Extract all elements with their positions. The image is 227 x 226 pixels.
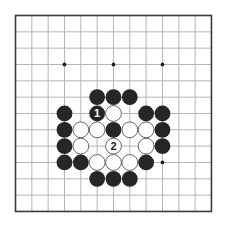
black-stone-circle xyxy=(138,155,154,171)
black-stone-circle xyxy=(122,171,138,187)
star-point xyxy=(112,63,116,67)
black-stone xyxy=(155,138,171,154)
star-point xyxy=(161,161,165,165)
white-stone xyxy=(138,138,154,154)
black-stone xyxy=(106,89,122,105)
black-stone-circle xyxy=(89,89,105,105)
black-stone xyxy=(106,122,122,138)
black-stone-circle xyxy=(89,171,105,187)
white-stone xyxy=(122,122,138,138)
white-stone-circle xyxy=(73,122,89,138)
white-stone-circle xyxy=(106,155,122,171)
black-stone xyxy=(57,155,73,171)
white-stone-circle xyxy=(73,138,89,154)
black-stone-circle xyxy=(106,171,122,187)
white-stone-circle xyxy=(122,155,138,171)
black-stone xyxy=(57,122,73,138)
move-number-label: 2 xyxy=(110,140,116,152)
black-stone-circle xyxy=(155,138,171,154)
black-stone-circle xyxy=(155,122,171,138)
white-stone xyxy=(73,138,89,154)
black-stone xyxy=(122,171,138,187)
white-stone xyxy=(106,106,122,122)
white-stone-circle xyxy=(89,155,105,171)
black-stone-circle xyxy=(106,122,122,138)
white-stone xyxy=(122,155,138,171)
black-stone xyxy=(73,155,89,171)
black-stone-circle xyxy=(57,122,73,138)
black-stone xyxy=(89,171,105,187)
black-stone xyxy=(155,122,171,138)
go-board: 12 xyxy=(0,0,227,226)
black-stone xyxy=(138,106,154,122)
white-stone xyxy=(138,122,154,138)
white-stone-move-2: 2 xyxy=(106,138,122,154)
black-stone-circle xyxy=(106,89,122,105)
star-point xyxy=(161,63,165,67)
white-stone xyxy=(73,122,89,138)
black-stone xyxy=(155,106,171,122)
white-stone-circle xyxy=(89,122,105,138)
white-stone xyxy=(89,122,105,138)
go-board-diagram: 12 xyxy=(0,0,227,226)
black-stone-circle xyxy=(138,106,154,122)
stones: 12 xyxy=(57,89,171,186)
white-stone xyxy=(89,155,105,171)
white-stone-circle xyxy=(122,122,138,138)
black-stone-circle xyxy=(73,155,89,171)
black-stone-move-1: 1 xyxy=(89,106,105,122)
white-stone-circle xyxy=(138,122,154,138)
black-stone xyxy=(57,138,73,154)
black-stone-circle xyxy=(57,155,73,171)
white-stone-circle xyxy=(138,138,154,154)
white-stone xyxy=(106,155,122,171)
black-stone-circle xyxy=(57,106,73,122)
move-number-label: 1 xyxy=(94,107,100,119)
black-stone xyxy=(106,171,122,187)
black-stone xyxy=(122,89,138,105)
black-stone xyxy=(89,89,105,105)
black-stone-circle xyxy=(57,138,73,154)
black-stone-circle xyxy=(155,106,171,122)
black-stone xyxy=(138,155,154,171)
black-stone xyxy=(57,106,73,122)
star-point xyxy=(63,63,67,67)
white-stone-circle xyxy=(106,106,122,122)
black-stone-circle xyxy=(122,89,138,105)
